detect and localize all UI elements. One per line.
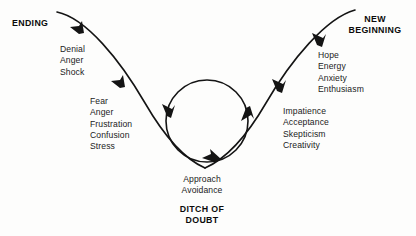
doubt-loop-circle-icon [166,80,248,162]
stage-item: Impatience [283,106,329,117]
arrowhead-icon [202,149,221,162]
stage-item: Denial [60,44,85,55]
stage-ascent-lower: Impatience Acceptance Skepticism Creativ… [283,106,329,151]
stage-item: Enthusiasm [318,84,364,95]
change-curve-diagram: ENDING NEW BEGINNING Denial Anger Shock … [0,0,416,236]
ditch-of-doubt-label-line1: DITCH OF [180,204,224,216]
stage-item: Acceptance [283,117,329,128]
stage-item: Anger [60,55,85,66]
stage-item: Skepticism [283,129,329,140]
ditch-of-doubt-label-line2: DOUBT [185,215,218,227]
arrowhead-group [70,21,326,93]
new-beginning-label-line2: BEGINNING [348,25,401,37]
doubt-loop-group [166,80,248,162]
stage-item: Anger [90,107,132,118]
stage-ascent-upper: Hope Energy Anxiety Enthusiasm [318,50,364,95]
stage-item: Anxiety [318,73,364,84]
stage-descent-upper: Denial Anger Shock [60,44,85,78]
arrowhead-icon [312,33,326,47]
stage-item: Energy [318,61,364,72]
stage-item: Approach [182,174,223,185]
loop-arrowhead-group [162,104,254,162]
stage-item: Frustration [90,119,132,130]
stage-item: Hope [318,50,364,61]
stage-bottom: Approach Avoidance [182,174,223,197]
arrowhead-icon [70,21,84,34]
stage-descent-lower: Fear Anger Frustration Confusion Stress [90,96,132,153]
arrowhead-icon [111,75,125,88]
stage-item: Stress [90,141,132,152]
stage-item: Creativity [283,140,329,151]
ending-label: ENDING [12,18,48,30]
stage-item: Shock [60,67,85,78]
stage-item: Fear [90,96,132,107]
stage-item: Confusion [90,130,132,141]
new-beginning-label-line1: NEW [364,14,386,26]
stage-item: Avoidance [182,185,223,196]
